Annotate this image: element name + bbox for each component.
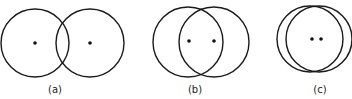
center-dot-c-left: [310, 37, 314, 41]
center-dot-a-right: [88, 41, 92, 45]
circle-c-right: [286, 6, 352, 72]
panel-label-c: (c): [313, 84, 326, 95]
center-dot-b-left: [187, 39, 191, 43]
panel-c: (c): [277, 6, 352, 95]
panel-label-b: (b): [188, 84, 202, 95]
circle-c-left: [277, 6, 343, 72]
panel-a: (a): [1, 9, 124, 95]
center-dot-b-right: [212, 39, 216, 43]
panel-label-a: (a): [48, 84, 62, 95]
center-dot-c-right: [319, 37, 323, 41]
panel-b: (b): [153, 7, 249, 95]
center-dot-a-left: [33, 41, 37, 45]
circle-overlap-diagram: (a) (b) (c): [0, 0, 352, 99]
